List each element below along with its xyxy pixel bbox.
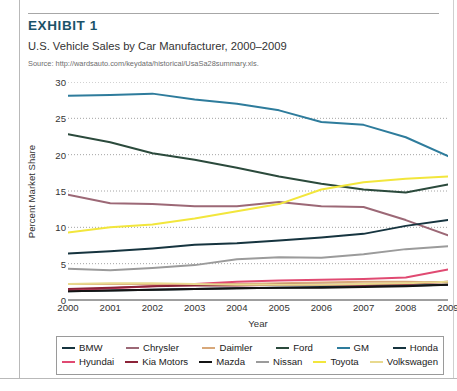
legend-swatch-icon [62,347,75,350]
legend-item-kia-motors[interactable]: Kia Motors [125,356,188,368]
y-tick-label: 15 [40,186,66,197]
exhibit-source: Source: http://wardsauto.com/keydata/his… [28,58,443,69]
plot-wrapper: Percent Market Share 051015202530 200020… [22,82,452,320]
legend-label: Kia Motors [142,356,188,368]
legend-swatch-icon [202,347,215,350]
x-tick-label: 2008 [395,302,416,313]
exhibit-divider [28,13,439,14]
legend-item-daimler[interactable]: Daimler [202,342,252,354]
legend-swatch-icon [276,347,289,350]
legend-label: Hyundai [79,356,114,368]
legend-swatch-icon [370,361,383,364]
y-tick-label: 30 [40,77,66,88]
legend-label: Nissan [273,356,302,368]
legend-label: Chrysler [143,342,179,354]
legend-item-mazda[interactable]: Mazda [199,356,245,368]
x-tick-label: 2000 [57,302,78,313]
y-tick-label: 5 [40,258,66,269]
legend-swatch-icon [313,361,326,364]
chart-legend: BMWChryslerDaimlerFordGMHonda HyundaiKia… [56,336,444,375]
legend-label: BMW [79,342,102,354]
page-rule-right [453,0,454,379]
legend-label: Ford [293,342,313,354]
legend-item-volkswagen[interactable]: Volkswagen [370,356,438,368]
legend-swatch-icon [393,347,406,350]
legend-item-toyota[interactable]: Toyota [313,356,358,368]
series-line-ford [68,134,448,192]
line-chart: Percent Market Share 051015202530 200020… [22,82,452,380]
legend-label: Mazda [216,356,245,368]
y-tick-label: 20 [40,149,66,160]
x-tick-label: 2004 [226,302,247,313]
y-axis-label-text: Percent Market Share [27,144,38,237]
x-tick-label: 2001 [100,302,121,313]
legend-swatch-icon [337,347,350,350]
legend-row-1: BMWChryslerDaimlerFordGMHonda [62,341,438,355]
legend-label: Volkswagen [387,356,438,368]
legend-item-ford[interactable]: Ford [276,342,313,354]
legend-item-hyundai[interactable]: Hyundai [62,356,114,368]
y-tick-label: 10 [40,222,66,233]
legend-label: Toyota [330,356,358,368]
page-rule-left [19,0,20,379]
x-tick-label: 2002 [142,302,163,313]
legend-label: GM [354,342,369,354]
exhibit-header: EXHIBIT 1 U.S. Vehicle Sales by Car Manu… [28,18,443,69]
x-axis-label: Year [68,318,448,329]
exhibit-title: EXHIBIT 1 [28,18,443,34]
x-tick-label: 2006 [311,302,332,313]
series-line-honda [68,220,448,253]
legend-item-nissan[interactable]: Nissan [256,356,302,368]
legend-label: Honda [410,342,438,354]
x-tick-label: 2003 [184,302,205,313]
x-tick-label: 2009 [437,302,457,313]
legend-swatch-icon [199,361,212,364]
legend-item-chrysler[interactable]: Chrysler [126,342,179,354]
x-tick-label: 2007 [353,302,374,313]
exhibit-page: EXHIBIT 1 U.S. Vehicle Sales by Car Manu… [0,0,457,391]
legend-swatch-icon [125,361,138,364]
legend-row-2: HyundaiKia MotorsMazdaNissanToyotaVolksw… [62,355,438,369]
y-axis-ticks: 051015202530 [38,82,66,300]
legend-swatch-icon [126,347,139,350]
legend-swatch-icon [62,361,75,364]
legend-item-gm[interactable]: GM [337,342,369,354]
legend-label: Daimler [219,342,252,354]
exhibit-subtitle: U.S. Vehicle Sales by Car Manufacturer, … [28,39,443,54]
plot-canvas [68,82,448,300]
x-tick-label: 2005 [268,302,289,313]
legend-item-bmw[interactable]: BMW [62,342,102,354]
legend-swatch-icon [256,361,269,364]
legend-item-honda[interactable]: Honda [393,342,438,354]
y-tick-label: 25 [40,113,66,124]
